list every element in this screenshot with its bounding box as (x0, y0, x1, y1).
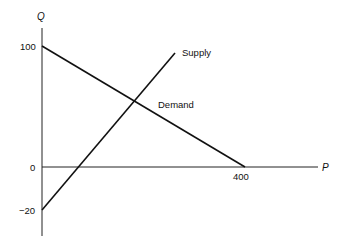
chart-svg: Q P 100 0 −20 400 Supply Demand (0, 0, 345, 252)
demand-label: Demand (158, 99, 194, 110)
tick-neg20: −20 (19, 205, 35, 216)
q-axis-label: Q (37, 11, 45, 22)
supply-demand-chart: Q P 100 0 −20 400 Supply Demand (0, 0, 345, 252)
tick-400: 400 (233, 171, 249, 182)
demand-line (42, 46, 245, 167)
supply-label: Supply (182, 47, 211, 58)
tick-100: 100 (20, 41, 36, 52)
supply-line (42, 53, 175, 210)
p-axis-label: P (322, 162, 329, 173)
tick-0: 0 (30, 162, 35, 173)
